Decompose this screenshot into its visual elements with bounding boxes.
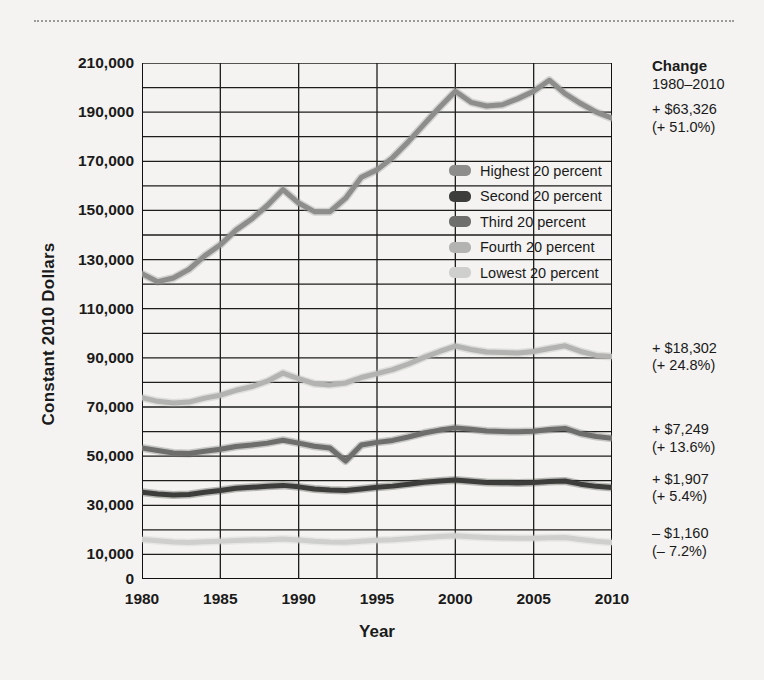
annotation-header: Change 1980–2010 <box>652 57 725 93</box>
change-amount: – $1,160 <box>652 525 708 543</box>
change-annotation: + $1,907(+ 5.4%) <box>652 471 709 506</box>
annotation-header-title: Change <box>652 57 707 74</box>
chart-page: Constant 2010 Dollars 010,00030,00050,00… <box>0 0 764 680</box>
change-amount: + $63,326 <box>652 101 717 119</box>
change-percent: (+ 5.4%) <box>652 488 709 506</box>
change-amount: + $18,302 <box>652 340 717 358</box>
change-annotation: + $18,302(+ 24.8%) <box>652 340 717 375</box>
change-percent: (+ 13.6%) <box>652 439 715 457</box>
change-amount: + $1,907 <box>652 471 709 489</box>
change-annotations: Change 1980–2010 + $63,326(+ 51.0%)+ $18… <box>0 0 764 680</box>
change-percent: (– 7.2%) <box>652 543 708 561</box>
change-annotation: + $63,326(+ 51.0%) <box>652 101 717 136</box>
change-percent: (+ 24.8%) <box>652 357 717 375</box>
change-amount: + $7,249 <box>652 421 715 439</box>
change-annotation: + $7,249(+ 13.6%) <box>652 421 715 456</box>
change-percent: (+ 51.0%) <box>652 119 717 137</box>
change-annotation: – $1,160(– 7.2%) <box>652 525 708 560</box>
annotation-header-range: 1980–2010 <box>652 76 725 92</box>
